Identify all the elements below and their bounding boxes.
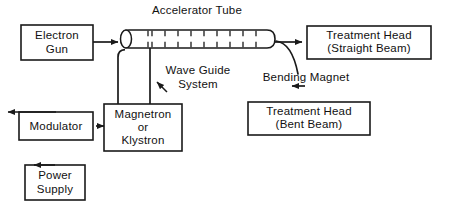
electron-gun-label-line1: Electron	[35, 29, 79, 41]
linac-block-diagram: Accelerator Tube Electron Gun	[0, 0, 450, 208]
treatment-head-straight-box: Treatment Head (Straight Beam)	[307, 26, 431, 59]
power-supply-label-line2: Supply	[37, 183, 73, 195]
diagram-canvas: Accelerator Tube Electron Gun	[0, 0, 450, 208]
magnetron-box: Magnetron or Klystron	[104, 104, 182, 151]
wave-guide-label-line2: System	[178, 78, 218, 90]
wave-guide-pointer-arrow-icon	[157, 82, 167, 92]
electron-gun-label-line2: Gun	[46, 43, 68, 55]
power-supply-box: Power Supply	[25, 165, 85, 200]
treatment-head-bent-label-line2: (Bent Beam)	[276, 118, 343, 130]
accelerator-tube	[121, 30, 276, 48]
wave-guide-label-line1: Wave Guide	[166, 64, 231, 76]
treatment-head-bent-label-line1: Treatment Head	[266, 105, 351, 117]
magnetron-label-line3: Klystron	[121, 134, 164, 146]
magnetron-label-line2: or	[138, 121, 149, 133]
modulator-box: Modulator	[19, 112, 93, 140]
treatment-head-straight-label-line1: Treatment Head	[326, 29, 411, 41]
treatment-head-bent-box: Treatment Head (Bent Beam)	[248, 102, 370, 135]
modulator-label: Modulator	[30, 120, 83, 132]
accelerator-tube-body	[121, 30, 275, 48]
wave-guide-system-lines	[118, 48, 150, 104]
power-supply-label-line1: Power	[38, 169, 72, 181]
accelerator-tube-entry-cap	[121, 30, 132, 48]
wave-guide-left-run	[118, 50, 125, 104]
bending-magnet-deflection-curve	[276, 41, 298, 74]
page-title: Accelerator Tube	[152, 4, 242, 16]
magnetron-label-line1: Magnetron	[115, 108, 172, 120]
treatment-head-straight-label-line2: (Straight Beam)	[327, 42, 411, 54]
wave-guide-annotation: Wave Guide System	[157, 64, 230, 92]
bending-magnet-label: Bending Magnet	[263, 71, 350, 83]
electron-gun-box: Electron Gun	[21, 25, 93, 60]
